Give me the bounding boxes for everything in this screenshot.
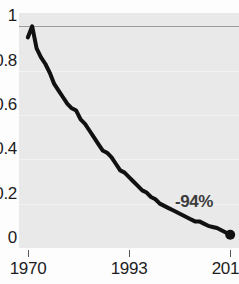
series-line-chart — [19, 13, 239, 248]
y-tick-label-2: 0.6 — [0, 95, 17, 112]
y-tick-label-4: 0.2 — [0, 184, 17, 201]
series-endpoint-marker — [225, 230, 235, 240]
plot-area: -94% — [19, 13, 239, 248]
y-tick-label-3: 0.4 — [0, 140, 17, 157]
x-tick-label-2: 2016 — [212, 260, 239, 277]
x-tick-mark-2 — [230, 250, 231, 257]
x-axis: 197019932016 — [0, 248, 239, 284]
y-tick-label-5: 0 — [8, 229, 17, 246]
x-tick-mark-0 — [28, 250, 29, 257]
y-tick-label-1: 0.8 — [0, 51, 17, 68]
delta-annotation: -94% — [175, 193, 213, 210]
chart-figure: -94% 10.80.60.40.20 197019932016 — [0, 0, 239, 284]
x-tick-label-0: 1970 — [10, 260, 47, 277]
y-tick-label-0: 1 — [8, 7, 17, 24]
x-tick-mark-1 — [129, 250, 130, 257]
x-tick-label-1: 1993 — [111, 260, 148, 277]
